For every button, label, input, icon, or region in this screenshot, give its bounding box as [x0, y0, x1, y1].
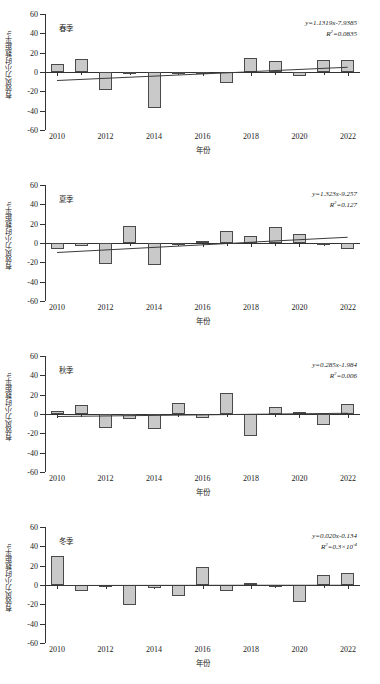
- x-tick-label: 2018: [243, 645, 259, 654]
- x-tick-label: 2022: [340, 132, 356, 141]
- x-tick: [299, 414, 300, 418]
- x-axis-title: 年份: [45, 144, 360, 155]
- regression-annotation: y=1.323x-9.257R2=0.127: [312, 189, 357, 211]
- r-squared-exponent: -4: [353, 542, 357, 547]
- x-tick-label: 2018: [243, 474, 259, 483]
- x-tick-label: 2020: [291, 474, 307, 483]
- y-tick-label: 60: [30, 10, 38, 19]
- y-tick: [40, 624, 45, 625]
- seasonal-anomaly-figure: 有效风力小时数距平/h6040200-20-40-602010201220142…: [0, 0, 380, 684]
- y-tick-label: 60: [30, 352, 38, 361]
- y-axis-title: 有效风力小时数距平/h: [2, 342, 16, 472]
- chart-panel: 有效风力小时数距平/h6040200-20-40-602010201220142…: [0, 0, 380, 171]
- y-tick-label: 0: [34, 239, 38, 248]
- regression-annotation: y=0.285x-1.984R2=0.006: [312, 360, 357, 382]
- chart-panel: 有效风力小时数距平/h6040200-20-40-602010201220142…: [0, 171, 380, 342]
- y-tick-label: 20: [30, 219, 38, 228]
- bar: [99, 72, 112, 90]
- y-axis-title: 有效风力小时数距平/h: [2, 0, 16, 130]
- bar: [75, 405, 88, 414]
- y-tick-label: -40: [27, 448, 38, 457]
- season-label: 冬季: [59, 535, 73, 546]
- plot-area: 6040200-20-40-60201020122014201620182020…: [45, 14, 360, 130]
- bar: [293, 72, 306, 76]
- x-tick-label: 2012: [98, 645, 114, 654]
- plot-area: 6040200-20-40-60201020122014201620182020…: [45, 356, 360, 472]
- bar: [317, 60, 330, 72]
- x-tick-label: 2014: [146, 132, 162, 141]
- x-tick-label: 2016: [195, 645, 211, 654]
- x-tick-label: 2020: [291, 303, 307, 312]
- x-tick: [130, 243, 131, 246]
- y-tick-label: -60: [27, 126, 38, 135]
- y-axis-title: 有效风力小时数距平/h: [2, 513, 16, 643]
- r-squared-value: R2=0.127: [312, 199, 357, 210]
- y-tick: [40, 185, 45, 186]
- x-tick-label: 2016: [195, 474, 211, 483]
- bar: [51, 64, 64, 72]
- bar: [75, 59, 88, 72]
- bar: [317, 414, 330, 425]
- y-tick-label: -40: [27, 619, 38, 628]
- y-tick-label: 60: [30, 181, 38, 190]
- x-tick-label: 2022: [340, 303, 356, 312]
- y-tick: [40, 14, 45, 15]
- y-tick: [40, 130, 45, 131]
- bar: [220, 231, 233, 243]
- x-tick: [324, 72, 325, 75]
- x-axis-title: 年份: [45, 657, 360, 668]
- y-tick-label: -40: [27, 106, 38, 115]
- y-tick-label: -40: [27, 277, 38, 286]
- bar: [75, 243, 88, 246]
- bar: [220, 72, 233, 83]
- y-tick-label: -20: [27, 429, 38, 438]
- y-tick: [40, 375, 45, 376]
- bar: [244, 58, 257, 72]
- y-tick: [40, 91, 45, 92]
- y-tick: [40, 453, 45, 454]
- bar: [341, 243, 354, 249]
- y-tick: [40, 356, 45, 357]
- y-tick: [40, 527, 45, 528]
- x-tick-label: 2022: [340, 474, 356, 483]
- bar: [341, 573, 354, 585]
- bar: [196, 241, 209, 243]
- x-tick: [275, 72, 276, 75]
- x-tick-label: 2018: [243, 132, 259, 141]
- bar: [123, 226, 136, 243]
- bar: [99, 243, 112, 264]
- plot-area: 6040200-20-40-60201020122014201620182020…: [45, 185, 360, 301]
- regression-equation: y=1.323x-9.257: [312, 189, 357, 199]
- x-tick: [251, 243, 252, 247]
- regression-equation: y=1.1319x-7.9385: [305, 18, 357, 28]
- y-tick-label: 20: [30, 48, 38, 57]
- y-tick: [40, 414, 45, 415]
- x-tick: [348, 72, 349, 76]
- chart-panel: 有效风力小时数距平/h6040200-20-40-602010201220142…: [0, 342, 380, 513]
- y-tick-label: 40: [30, 542, 38, 551]
- x-tick-label: 2020: [291, 645, 307, 654]
- y-tick-label: 20: [30, 390, 38, 399]
- bar: [220, 393, 233, 414]
- season-label: 秋季: [59, 364, 73, 375]
- y-tick: [40, 262, 45, 263]
- y-tick-label: -60: [27, 468, 38, 477]
- y-tick: [40, 433, 45, 434]
- x-tick: [348, 585, 349, 589]
- bar: [51, 243, 64, 249]
- y-tick: [40, 224, 45, 225]
- x-tick-label: 2014: [146, 645, 162, 654]
- plot-area: 6040200-20-40-60201020122014201620182020…: [45, 527, 360, 643]
- season-label: 夏季: [59, 193, 73, 204]
- x-axis-title: 年份: [45, 315, 360, 326]
- bar: [148, 72, 161, 108]
- bar: [293, 585, 306, 602]
- y-tick-label: -60: [27, 639, 38, 648]
- x-tick-label: 2016: [195, 132, 211, 141]
- x-tick: [81, 72, 82, 75]
- x-tick: [57, 72, 58, 76]
- r-squared-value: R2=0.3×10-4: [312, 541, 357, 552]
- bar: [172, 585, 185, 596]
- y-tick: [40, 243, 45, 244]
- x-tick-label: 2010: [49, 303, 65, 312]
